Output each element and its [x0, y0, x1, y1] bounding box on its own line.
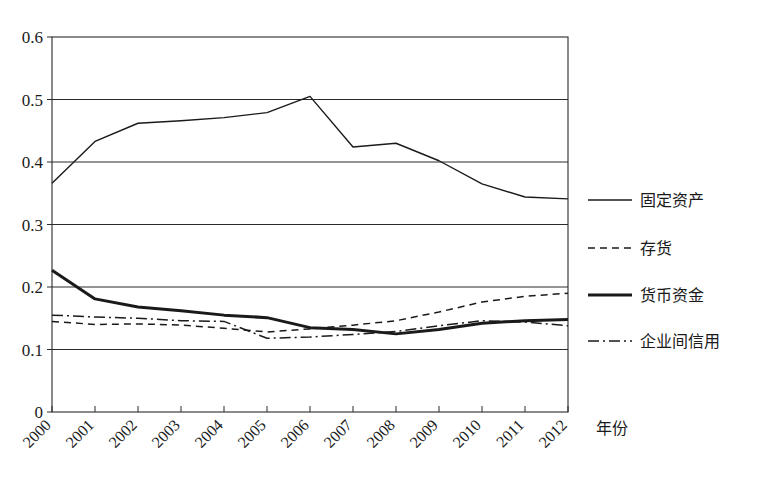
x-axis-title: 年份 — [596, 420, 628, 437]
y-tick-label: 0.6 — [22, 28, 43, 47]
line-chart: 0.60.50.40.30.20.10 20002001200220032004… — [0, 0, 762, 496]
legend-label: 固定资产 — [640, 192, 704, 209]
y-tick-label: 0.1 — [22, 341, 43, 360]
y-tick-label: 0.2 — [22, 278, 43, 297]
chart-figure: 0.60.50.40.30.20.10 20002001200220032004… — [0, 0, 762, 496]
legend-label: 存货 — [640, 240, 672, 257]
legend-label: 货币资金 — [640, 287, 704, 304]
y-tick-label: 0.5 — [22, 91, 43, 110]
y-tick-label: 0.3 — [22, 216, 43, 235]
y-tick-label: 0.4 — [22, 153, 44, 172]
legend-label: 企业间信用 — [640, 333, 720, 350]
